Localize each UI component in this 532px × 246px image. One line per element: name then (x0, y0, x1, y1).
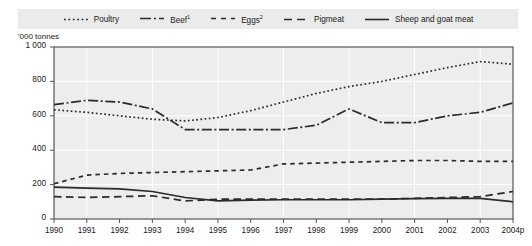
y-axis-tick-label: 200 (6, 179, 46, 188)
x-axis-tick-label: 2004p (493, 226, 532, 235)
y-axis-tick-label: 600 (6, 110, 46, 119)
y-axis-tick-label: 0 (6, 213, 46, 222)
y-axis-tick-label: 800 (6, 75, 46, 84)
plot-area: 02004006008001 000 199019911992199319941… (0, 0, 532, 246)
y-axis-tick-label: 1 000 (6, 41, 46, 50)
y-axis-tick-label: 400 (6, 144, 46, 153)
plot-svg (0, 0, 532, 246)
chart-container: Poultry Beef1 Eggs2 (0, 0, 532, 246)
